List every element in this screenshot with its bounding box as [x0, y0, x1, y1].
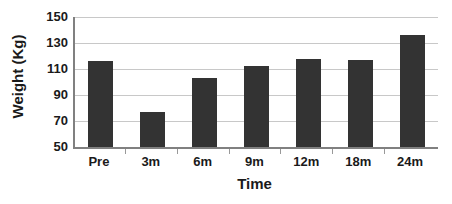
- bar: [140, 112, 165, 147]
- x-axis-tick-label: 9m: [245, 153, 264, 171]
- x-axis-title: Time: [73, 175, 436, 192]
- y-axis-tick-labels: 507090110130150: [34, 10, 70, 154]
- bar: [348, 60, 373, 147]
- plot-area: [73, 17, 438, 149]
- bars-series: [75, 17, 438, 147]
- bar-chart: Weight (Kg) 507090110130150 Pre3m6m9m12m…: [0, 0, 452, 204]
- x-axis-tick-label: 18m: [345, 153, 371, 171]
- x-axis-tick-label: Pre: [88, 153, 109, 171]
- bar: [400, 35, 425, 147]
- x-axis-tick-labels: Pre3m6m9m12m18m24m: [73, 153, 436, 173]
- y-axis-tick-label: 90: [54, 88, 68, 102]
- bar: [192, 78, 217, 147]
- x-axis-tick-label: 3m: [141, 153, 160, 171]
- y-axis-title-text: Weight (Kg): [10, 34, 27, 118]
- x-axis-tick-label: 12m: [293, 153, 319, 171]
- y-axis-tick-label: 50: [54, 140, 68, 154]
- y-axis-tick-label: 130: [46, 36, 68, 50]
- y-axis-tick-label: 150: [46, 10, 68, 24]
- bar: [88, 61, 113, 147]
- x-axis-tick-label: 24m: [397, 153, 423, 171]
- bar: [244, 66, 269, 147]
- y-axis-tick-label: 70: [54, 114, 68, 128]
- y-axis-title: Weight (Kg): [0, 0, 36, 152]
- y-axis-tick-label: 110: [47, 62, 68, 76]
- bar: [296, 59, 321, 147]
- gridline: [75, 147, 438, 148]
- x-axis-tick-label: 6m: [193, 153, 212, 171]
